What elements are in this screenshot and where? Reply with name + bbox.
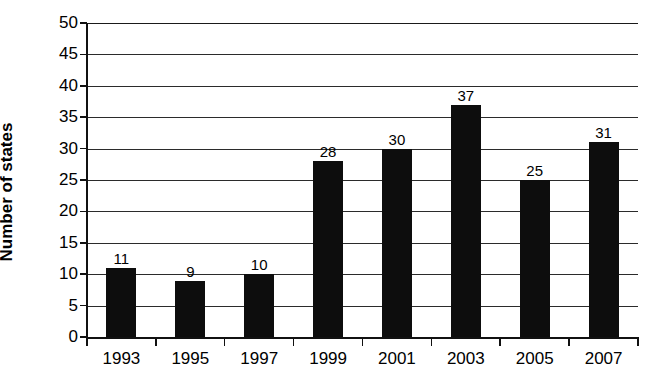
y-tick-label: 40	[4, 77, 78, 94]
gridline	[87, 243, 638, 244]
y-tick-label: 35	[4, 108, 78, 125]
x-tick-mark	[431, 338, 433, 346]
bar	[520, 180, 550, 337]
y-tick-label: 5	[4, 297, 78, 314]
bar	[589, 142, 619, 337]
y-tick-label: 30	[4, 140, 78, 157]
bar	[175, 281, 205, 338]
x-tick-label: 1993	[87, 349, 156, 368]
bar-value-label: 25	[515, 163, 555, 178]
bar-value-label: 30	[377, 132, 417, 147]
gridline	[87, 54, 638, 55]
x-tick-label: 1999	[294, 349, 363, 368]
x-tick-label: 2005	[500, 349, 569, 368]
x-tick-label: 2003	[431, 349, 500, 368]
y-tick-label: 50	[4, 14, 78, 31]
gridline	[87, 149, 638, 150]
bar-value-label: 11	[101, 251, 141, 266]
gridline	[87, 86, 638, 87]
bar-value-label: 31	[584, 125, 624, 140]
bar-value-label: 28	[308, 144, 348, 159]
y-tick-labels: 05101520253035404550	[0, 0, 78, 384]
x-tick-mark	[86, 338, 88, 346]
bar-value-label: 10	[239, 257, 279, 272]
bar-value-label: 9	[170, 264, 210, 279]
gridline	[87, 211, 638, 212]
bar-value-label: 37	[446, 88, 486, 103]
plot-area	[87, 23, 638, 337]
y-tick-label: 45	[4, 45, 78, 62]
x-tick-label: 1995	[156, 349, 225, 368]
bar	[244, 274, 274, 337]
x-tick-mark	[155, 338, 157, 346]
y-tick-label: 0	[4, 328, 78, 345]
bar	[313, 161, 343, 337]
bar	[382, 149, 412, 337]
gridline	[87, 117, 638, 118]
gridline	[87, 23, 638, 24]
x-tick-label: 1997	[225, 349, 294, 368]
bar	[451, 105, 481, 337]
y-tick-label: 10	[4, 265, 78, 282]
x-tick-label: 2001	[362, 349, 431, 368]
x-tick-mark	[362, 338, 364, 346]
y-axis-line	[86, 23, 88, 338]
y-tick-label: 25	[4, 171, 78, 188]
x-tick-label: 2007	[569, 349, 638, 368]
x-tick-mark	[499, 338, 501, 346]
gridline	[87, 180, 638, 181]
x-tick-mark	[637, 338, 639, 346]
x-tick-mark	[224, 338, 226, 346]
x-tick-mark	[293, 338, 295, 346]
x-tick-mark	[568, 338, 570, 346]
y-tick-label: 20	[4, 202, 78, 219]
bar-chart: Number of states 05101520253035404550 11…	[0, 0, 650, 384]
y-tick-label: 15	[4, 234, 78, 251]
gridline	[87, 306, 638, 307]
bar	[106, 268, 136, 337]
